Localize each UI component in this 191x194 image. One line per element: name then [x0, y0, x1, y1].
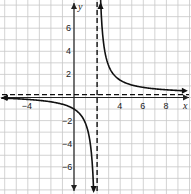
y-axis-label: y: [77, 1, 83, 12]
graph: −4468642−2−4−6xy: [0, 0, 191, 194]
curve-left-branch: [1, 98, 93, 191]
y-tick-label: 2: [66, 69, 71, 79]
x-tick-label: 6: [140, 101, 145, 111]
coordinate-plane: −4468642−2−4−6xy: [0, 0, 191, 194]
curve-arrow-icon: [1, 95, 7, 101]
y-tick-label: −6: [62, 162, 72, 172]
curve-arrow-icon: [182, 88, 188, 94]
y-axis-arrow-up-icon: [71, 3, 77, 9]
y-tick-label: 4: [66, 46, 71, 56]
x-axis-label: x: [182, 100, 188, 111]
x-tick-label: 8: [163, 101, 168, 111]
curve-right-branch: [101, 0, 185, 91]
y-tick-label: −4: [62, 139, 72, 149]
x-tick-label: 4: [117, 101, 122, 111]
y-tick-label: −2: [62, 116, 72, 126]
y-tick-label: 6: [66, 23, 71, 33]
x-tick-label: −4: [22, 101, 32, 111]
